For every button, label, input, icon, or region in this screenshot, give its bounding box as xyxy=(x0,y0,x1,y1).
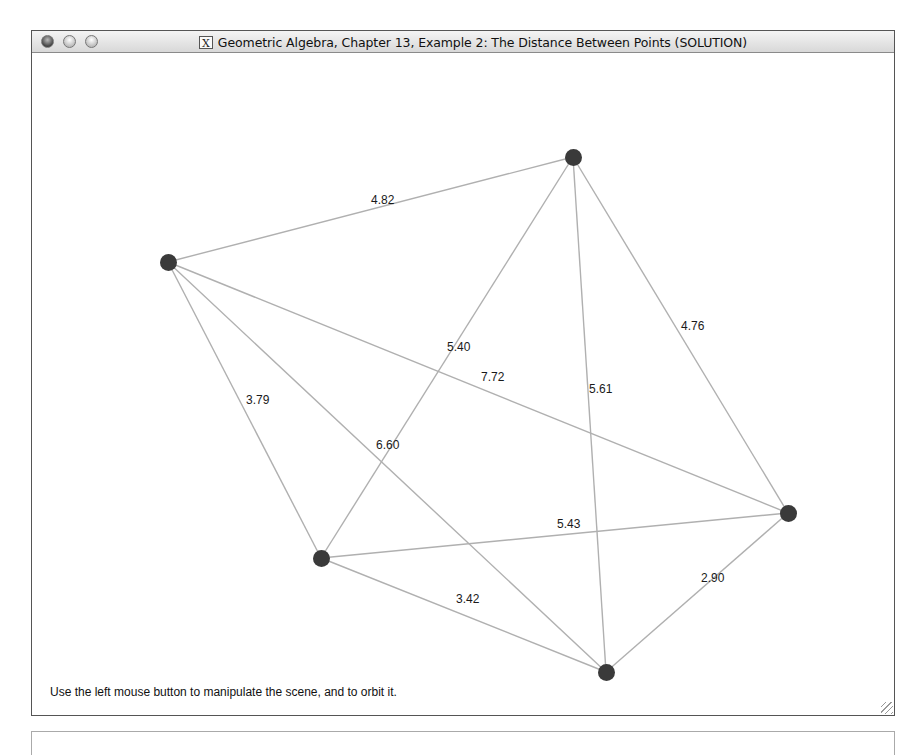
window-title: Geometric Algebra, Chapter 13, Example 2… xyxy=(218,35,747,50)
edge-A-E xyxy=(168,262,606,672)
edge-C-E xyxy=(606,513,788,672)
distance-label: 5.43 xyxy=(557,517,580,531)
distance-label: 3.42 xyxy=(456,592,479,606)
point-B[interactable] xyxy=(565,149,582,166)
edge-A-C xyxy=(168,262,788,513)
point-C[interactable] xyxy=(780,505,797,522)
point-E[interactable] xyxy=(598,664,615,681)
distance-label: 5.40 xyxy=(447,340,470,354)
title-bar[interactable]: X Geometric Algebra, Chapter 13, Example… xyxy=(32,31,894,53)
distance-label: 4.76 xyxy=(681,319,704,333)
edge-D-E xyxy=(321,558,606,672)
scene-canvas[interactable]: 4.824.765.405.617.723.796.605.433.422.90… xyxy=(32,53,894,715)
distance-label: 2.90 xyxy=(701,571,724,585)
edge-A-B xyxy=(168,157,573,262)
distance-label: 6.60 xyxy=(376,438,399,452)
edges-layer xyxy=(1,1,915,755)
x11-icon: X xyxy=(199,36,213,49)
distance-label: 4.82 xyxy=(371,193,394,207)
app-window: X Geometric Algebra, Chapter 13, Example… xyxy=(31,30,895,716)
title-container: X Geometric Algebra, Chapter 13, Example… xyxy=(32,31,894,53)
distance-label: 5.61 xyxy=(589,382,612,396)
point-A[interactable] xyxy=(160,254,177,271)
edge-B-C xyxy=(573,157,788,513)
instruction-text: Use the left mouse button to manipulate … xyxy=(50,685,397,699)
edge-B-E xyxy=(573,157,606,672)
edge-A-D xyxy=(168,262,321,558)
resize-grip[interactable] xyxy=(881,702,893,714)
distance-label: 3.79 xyxy=(246,393,269,407)
edge-D-C xyxy=(321,513,788,558)
distance-label: 7.72 xyxy=(481,370,504,384)
secondary-panel xyxy=(31,731,895,755)
edge-B-D xyxy=(321,157,573,558)
point-D[interactable] xyxy=(313,550,330,567)
